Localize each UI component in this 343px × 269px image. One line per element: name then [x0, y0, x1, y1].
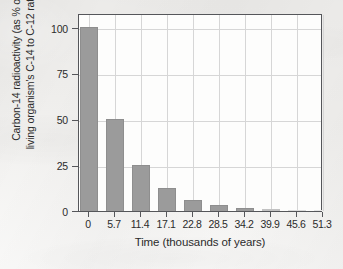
- x-tick-mark-11-4: [140, 212, 141, 217]
- x-tick-label-51-3: 51.3: [302, 219, 342, 230]
- y-tick-label-100: 100: [28, 24, 68, 35]
- x-tick-mark-17-1: [166, 212, 167, 217]
- gridline-vertical-51-3: [323, 15, 324, 211]
- x-tick-mark-34-2: [244, 212, 245, 217]
- y-tick-label-0: 0: [28, 207, 68, 218]
- bar-45-6: [288, 210, 306, 211]
- bar-51-3: [314, 210, 323, 211]
- bar-11-4: [132, 165, 150, 211]
- x-axis-label: Time (thousands of years): [78, 236, 322, 248]
- bar-17-1: [158, 188, 176, 211]
- y-tick-label-75: 75: [28, 69, 68, 80]
- x-tick-mark-5-7: [114, 212, 115, 217]
- x-tick-mark-0: [88, 212, 89, 217]
- bar-0: [80, 27, 98, 211]
- y-tick-label-25: 25: [28, 161, 68, 172]
- bar-22-8: [184, 200, 202, 212]
- x-tick-mark-39-9: [270, 212, 271, 217]
- y-tick-label-50: 50: [28, 115, 68, 126]
- bar-34-2: [236, 208, 254, 211]
- bar-39-9: [262, 209, 280, 211]
- y-axis-label-line-1: Carbon-14 radioactivity (as % of: [10, 0, 24, 169]
- x-tick-mark-45-6: [296, 212, 297, 217]
- carbon-14-decay-figure: Carbon-14 radioactivity (as % of living …: [0, 0, 343, 269]
- x-tick-mark-22-8: [192, 212, 193, 217]
- x-tick-mark-51-3: [322, 212, 323, 217]
- bar-5-7: [106, 119, 124, 211]
- x-tick-mark-28-5: [218, 212, 219, 217]
- plot-area: [78, 14, 322, 212]
- bar-28-5: [210, 205, 228, 211]
- bars: [79, 15, 321, 211]
